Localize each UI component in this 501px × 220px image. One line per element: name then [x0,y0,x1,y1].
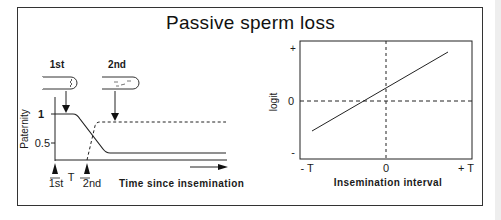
time-arrow-icon [218,164,228,170]
y-tick-0-5: 0.5 [35,137,50,149]
right-panel: + 0 - logit - T 0 + T Insemination inter… [268,41,474,188]
first-insemination-label: 1st [50,59,65,70]
first-male-paternity-curve [55,114,226,153]
x-tick-zero: 0 [383,162,389,174]
left-panel: 1st 2nd 1 0.5 Paternity [19,59,244,189]
x-tick-plus-t: + T [458,162,474,174]
y-tick-1: 1 [38,108,44,120]
time-marker-first: 1st [49,177,64,189]
diagram-canvas: 1st 2nd 1 0.5 Paternity [0,0,501,220]
logit-axis-label: logit [268,93,279,112]
first-insemination-organ-icon: 1st [42,59,77,113]
time-marker-interval: T [68,171,75,183]
second-insemination-organ-icon: 2nd [102,59,139,121]
x-tick-minus-t: - T [300,162,314,174]
interval-axis-label: Insemination interval [334,177,442,188]
y-tick-minus: - [291,146,295,158]
time-marker-second: 2nd [83,177,101,189]
y-tick-zero: 0 [288,95,294,107]
time-axis-label: Time since insemination [119,178,244,189]
paternity-axis-label: Paternity [19,109,30,148]
logit-plot-box [300,41,472,159]
y-tick-plus: + [290,43,296,54]
second-male-paternity-curve [87,122,226,160]
second-insemination-marker-icon [84,163,90,174]
first-insemination-marker-icon [52,163,58,174]
logit-regression-line [312,52,448,131]
second-insemination-label: 2nd [108,59,126,70]
